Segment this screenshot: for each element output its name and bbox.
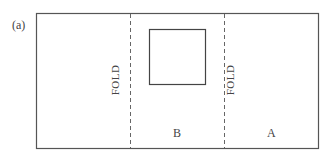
- cutout-square: [150, 30, 206, 85]
- fold-label-right: FOLD: [224, 65, 236, 96]
- fold-label-left: FOLD: [109, 65, 121, 96]
- panel-label-b: B: [173, 127, 181, 139]
- panel-label-a: A: [267, 127, 276, 139]
- fold-diagram: [0, 0, 332, 154]
